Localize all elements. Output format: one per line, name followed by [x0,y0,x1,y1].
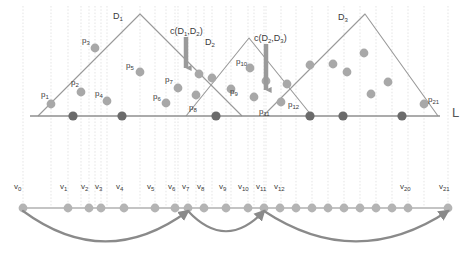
site-point-p8 [192,91,201,100]
vertex-v16 [340,204,349,213]
site-point-p1 [47,100,56,109]
site-point [306,61,315,70]
baseline-point [305,111,314,120]
vertex-v20 [404,204,413,213]
site-point [329,60,338,69]
vertex-v9 [222,204,231,213]
diagram-canvas: D1D2D3c(D1,D2)c(D2,D3)p1p2p3p4p5p6p7p8p9… [0,0,475,255]
vertex-v17 [356,204,365,213]
vertex-v19 [388,204,397,213]
site-point [195,70,204,79]
site-point-p4 [103,97,112,106]
baseline-point [117,111,126,120]
vertex-v8 [200,204,209,213]
vertex-v3 [97,204,106,213]
site-point [283,80,292,89]
labeled-points [47,44,429,109]
vertex-v6 [171,204,180,213]
vertex-v10 [244,204,253,213]
site-point-p11 [250,93,259,102]
vertex-v5 [151,204,160,213]
site-point-p3 [91,44,100,53]
site-point-p6 [162,99,171,108]
wedge-triangles [38,14,438,116]
vertex-v1 [64,204,73,213]
site-point-p5 [136,68,145,77]
arc-v11-v21 [264,211,448,241]
vertical-gridlines [23,6,448,206]
vertex-v12 [276,204,285,213]
baseline-point [211,111,220,120]
site-point [343,68,352,77]
site-point [227,85,236,94]
site-point [360,49,369,58]
site-point [367,90,376,99]
baseline-point [397,111,406,120]
vertex-v13 [292,204,301,213]
baseline-point [338,111,347,120]
vertex-v4 [120,204,129,213]
unlabeled-points [195,49,393,99]
site-point [384,78,393,87]
arc-v0-v7 [23,211,188,241]
site-point-p9 [208,74,217,83]
site-point-p10 [246,64,255,73]
site-point-p21 [420,100,429,109]
arc-v7-v11 [188,211,264,231]
vertex-v15 [324,204,333,213]
site-point-p7 [174,84,183,93]
wedge-D2 [186,38,312,116]
figure-svg [0,0,475,255]
wedge-D3 [263,14,438,116]
vertex-v14 [308,204,317,213]
vertex-v18 [372,204,381,213]
baseline-point [68,111,77,120]
lower-axis-arcs [23,211,448,241]
vertex-v2 [85,204,94,213]
site-point-p12 [277,98,286,107]
site-point-p2 [77,88,86,97]
